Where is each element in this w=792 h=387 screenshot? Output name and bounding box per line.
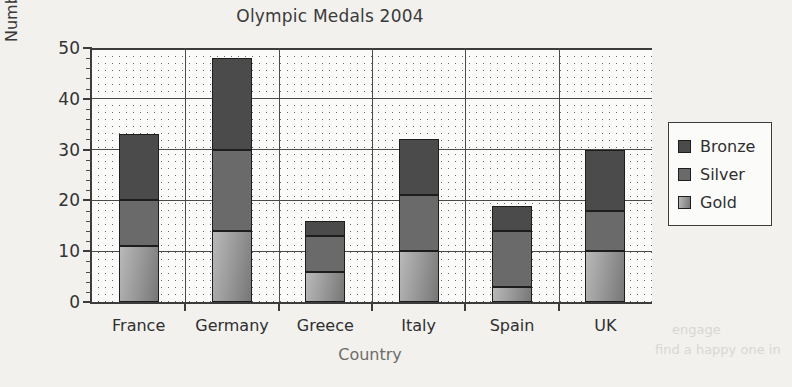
legend-swatch-gold-icon [678, 196, 691, 209]
plot-inner [92, 48, 652, 302]
bar-segment-germany-gold[interactable] [212, 231, 252, 302]
legend: BronzeSilverGold [668, 122, 772, 226]
y-axis-title: Number of medals [2, 0, 26, 83]
x-tick-label-spain: Spain [490, 316, 535, 335]
gridline-x-1 [185, 48, 186, 302]
bar-group-greece[interactable] [305, 48, 345, 302]
bar-segment-france-silver[interactable] [119, 200, 159, 246]
y-tick-major-40 [83, 98, 92, 100]
y-tick-minor-28 [86, 160, 92, 161]
y-tick-label-30: 30 [58, 140, 80, 160]
x-tick-5 [558, 302, 560, 311]
y-tick-minor-22 [86, 190, 92, 191]
y-tick-label-0: 0 [69, 292, 80, 312]
x-tick-label-germany: Germany [195, 316, 269, 335]
y-tick-minor-48 [86, 58, 92, 59]
bar-segment-spain-bronze[interactable] [492, 206, 532, 231]
y-tick-minor-44 [86, 78, 92, 79]
scan-artifact-1: engage [672, 322, 721, 337]
gridline-x-5 [559, 48, 560, 302]
y-tick-minor-36 [86, 119, 92, 120]
y-tick-minor-24 [86, 180, 92, 181]
legend-swatch-silver-icon [678, 168, 691, 181]
y-tick-minor-2 [86, 292, 92, 293]
bar-group-germany[interactable] [212, 48, 252, 302]
x-tick-3 [371, 302, 373, 311]
y-tick-minor-26 [86, 170, 92, 171]
y-tick-minor-14 [86, 231, 92, 232]
y-tick-minor-46 [86, 68, 92, 69]
legend-item-bronze[interactable]: Bronze [678, 132, 763, 160]
x-axis-title: Country [90, 345, 650, 364]
y-tick-minor-38 [86, 109, 92, 110]
y-tick-major-10 [83, 250, 92, 252]
legend-item-gold[interactable]: Gold [678, 188, 763, 216]
bar-segment-france-gold[interactable] [119, 246, 159, 302]
plot-area: 01020304050 FranceGermanyGreeceItalySpai… [90, 48, 652, 304]
legend-swatch-bronze-icon [678, 140, 691, 153]
x-tick-4 [464, 302, 466, 311]
legend-label-gold: Gold [700, 193, 737, 212]
bar-group-france[interactable] [119, 48, 159, 302]
x-tick-label-greece: Greece [297, 316, 354, 335]
bar-segment-greece-gold[interactable] [305, 272, 345, 302]
bar-segment-uk-gold[interactable] [585, 251, 625, 302]
legend-label-silver: Silver [700, 165, 745, 184]
y-tick-label-10: 10 [58, 241, 80, 261]
x-tick-label-france: France [112, 316, 165, 335]
bar-segment-germany-silver[interactable] [212, 150, 252, 231]
y-tick-label-50: 50 [58, 38, 80, 58]
bar-segment-spain-gold[interactable] [492, 287, 532, 302]
y-tick-label-40: 40 [58, 89, 80, 109]
bar-segment-france-bronze[interactable] [119, 134, 159, 200]
y-tick-minor-32 [86, 139, 92, 140]
bar-segment-spain-silver[interactable] [492, 231, 532, 287]
gridline-x-2 [279, 48, 280, 302]
x-tick-1 [184, 302, 186, 311]
y-tick-minor-6 [86, 272, 92, 273]
bar-segment-greece-bronze[interactable] [305, 221, 345, 236]
bar-segment-greece-silver[interactable] [305, 236, 345, 272]
y-tick-minor-18 [86, 211, 92, 212]
y-tick-major-30 [83, 149, 92, 151]
legend-label-bronze: Bronze [700, 137, 755, 156]
y-tick-minor-34 [86, 129, 92, 130]
bar-group-spain[interactable] [492, 48, 532, 302]
x-tick-label-italy: Italy [401, 316, 436, 335]
x-tick-2 [278, 302, 280, 311]
chart-title: Olympic Medals 2004 [0, 6, 660, 26]
y-tick-minor-8 [86, 261, 92, 262]
bar-segment-uk-silver[interactable] [585, 211, 625, 252]
gridline-x-4 [465, 48, 466, 302]
bar-segment-germany-bronze[interactable] [212, 58, 252, 149]
x-tick-label-uk: UK [594, 316, 616, 335]
bar-group-italy[interactable] [399, 48, 439, 302]
bar-segment-italy-silver[interactable] [399, 195, 439, 251]
bar-segment-italy-bronze[interactable] [399, 139, 439, 195]
y-tick-minor-16 [86, 221, 92, 222]
y-tick-major-20 [83, 199, 92, 201]
y-tick-major-0 [83, 301, 92, 303]
y-tick-label-20: 20 [58, 190, 80, 210]
y-tick-minor-12 [86, 241, 92, 242]
chart-container: Olympic Medals 2004 Number of medals 010… [0, 0, 792, 387]
y-tick-minor-4 [86, 282, 92, 283]
gridline-x-3 [372, 48, 373, 302]
y-tick-major-50 [83, 47, 92, 49]
scan-artifact-2: find a happy one in [655, 342, 781, 357]
bar-group-uk[interactable] [585, 48, 625, 302]
bar-segment-italy-gold[interactable] [399, 251, 439, 302]
y-tick-minor-42 [86, 89, 92, 90]
legend-item-silver[interactable]: Silver [678, 160, 763, 188]
bar-segment-uk-bronze[interactable] [585, 150, 625, 211]
